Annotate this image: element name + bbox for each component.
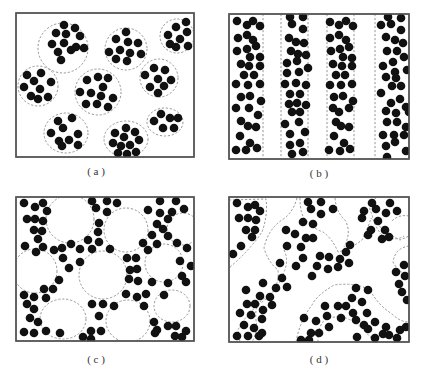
particle (293, 99, 302, 108)
particle (317, 198, 326, 207)
particle (295, 118, 304, 127)
particle (39, 217, 48, 226)
particle (276, 259, 285, 268)
particle (67, 240, 76, 249)
particle (31, 215, 40, 224)
particle (126, 141, 135, 150)
particle (132, 148, 141, 157)
particle (111, 129, 120, 138)
particle (244, 81, 253, 90)
particle (330, 93, 339, 102)
particle (106, 245, 115, 254)
particle (242, 226, 251, 235)
particle (88, 245, 97, 254)
particle (383, 47, 392, 56)
particle (398, 288, 407, 297)
particle (30, 293, 39, 302)
particle (176, 257, 185, 266)
particle (348, 294, 357, 303)
particle (299, 254, 308, 263)
particle (266, 293, 275, 302)
particle (326, 18, 335, 27)
particle (247, 311, 256, 320)
particle (342, 17, 351, 26)
particle (345, 104, 354, 113)
particle (278, 274, 287, 283)
particle (20, 83, 29, 92)
particle (244, 332, 253, 341)
particle (76, 258, 85, 267)
particle (55, 276, 64, 285)
particle (151, 329, 160, 338)
particle (335, 108, 344, 117)
particle (99, 300, 108, 309)
particle (352, 284, 361, 293)
particle (302, 101, 311, 110)
particle (292, 79, 301, 88)
particle (396, 95, 405, 104)
particle (184, 42, 193, 51)
particle (353, 333, 362, 342)
particle (317, 210, 326, 219)
particle (122, 290, 131, 299)
particle (237, 242, 246, 251)
particle (393, 207, 402, 216)
particle (38, 227, 47, 236)
caption-d: ( d ) (310, 353, 329, 366)
particle (383, 118, 392, 127)
particle (48, 40, 57, 49)
particle (400, 261, 409, 270)
particle (137, 50, 146, 59)
particle (65, 136, 74, 145)
particle (382, 323, 391, 332)
particle (299, 148, 308, 157)
particle (339, 92, 348, 101)
particle (160, 82, 169, 91)
particle (326, 34, 335, 43)
particle (243, 45, 252, 54)
particle (92, 204, 101, 213)
particle (281, 80, 290, 89)
particle (281, 120, 290, 129)
particle (57, 56, 66, 65)
particle (392, 74, 401, 83)
particle (59, 124, 68, 133)
particle (337, 81, 346, 90)
particle (385, 233, 394, 242)
particle (304, 64, 313, 73)
particle (30, 77, 39, 86)
particle (339, 53, 348, 62)
particle (141, 71, 150, 80)
particle (87, 327, 96, 336)
particle (282, 226, 291, 235)
particle (364, 286, 373, 295)
particle (305, 336, 314, 345)
particle (148, 278, 157, 287)
particle (256, 207, 265, 216)
particle (372, 205, 381, 214)
particle (325, 146, 334, 155)
particle (400, 53, 409, 62)
particle (379, 62, 388, 71)
particle (126, 49, 135, 58)
particle (383, 153, 392, 162)
particle (252, 42, 261, 51)
particle (97, 327, 106, 336)
particle (122, 124, 131, 133)
particle (62, 30, 71, 39)
particle (385, 331, 394, 340)
particle (232, 104, 241, 113)
particle (71, 24, 80, 33)
particle (232, 80, 241, 89)
particle (76, 88, 85, 97)
particle (324, 265, 333, 274)
particle (397, 82, 406, 91)
particle (337, 122, 346, 131)
particle (105, 48, 114, 57)
particle (124, 38, 133, 47)
particle (397, 26, 406, 35)
particle (153, 240, 162, 249)
particle (112, 35, 121, 44)
particle (150, 318, 159, 327)
particle (248, 233, 257, 242)
